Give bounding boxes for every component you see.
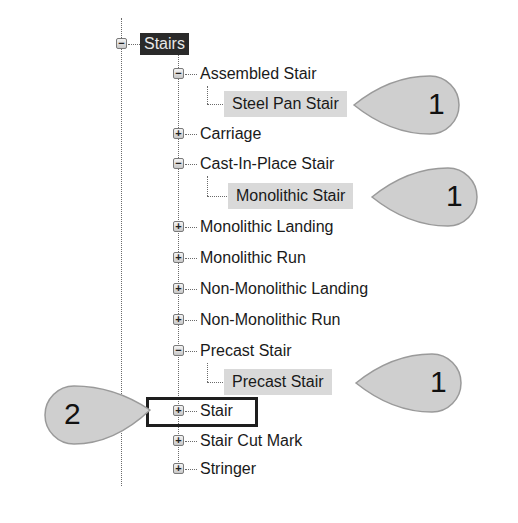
expand-toggle-icon[interactable]: + xyxy=(173,314,184,325)
callout-2-stair xyxy=(34,382,154,448)
tree-line xyxy=(185,411,197,412)
tree-item-monolithic-run[interactable]: Monolithic Run xyxy=(197,247,309,269)
collapse-toggle-icon[interactable]: − xyxy=(173,158,184,169)
tree-item-precast-stair[interactable]: Precast Stair xyxy=(197,340,295,362)
tree-line xyxy=(185,351,197,352)
collapse-toggle-icon[interactable]: − xyxy=(116,38,127,49)
tree-item-stringer[interactable]: Stringer xyxy=(197,458,259,480)
tree-line xyxy=(185,258,197,259)
collapse-toggle-icon[interactable]: − xyxy=(173,345,184,356)
tree-line xyxy=(185,441,197,442)
tree-line xyxy=(185,164,197,165)
tree-item-stairs[interactable]: Stairs xyxy=(140,33,189,55)
expand-toggle-icon[interactable]: + xyxy=(173,283,184,294)
tree-line xyxy=(185,74,197,75)
tree-item-carriage[interactable]: Carriage xyxy=(197,123,264,145)
tree-item-monolithic-stair[interactable]: Monolithic Stair xyxy=(228,183,353,209)
tree-line xyxy=(185,134,197,135)
tree-line xyxy=(185,469,197,470)
tree-line xyxy=(185,320,197,321)
collapse-toggle-icon[interactable]: − xyxy=(173,68,184,79)
expand-toggle-icon[interactable]: + xyxy=(173,128,184,139)
callout-number: 1 xyxy=(428,87,445,121)
callout-number: 2 xyxy=(64,397,81,431)
tree-line xyxy=(207,86,208,104)
tree-line xyxy=(207,104,225,105)
tree-item-stair-cut-mark[interactable]: Stair Cut Mark xyxy=(197,430,305,452)
callout-1-steel-pan-stair xyxy=(350,72,470,138)
tree-line xyxy=(207,363,208,382)
tree-item-monolithic-landing[interactable]: Monolithic Landing xyxy=(197,216,336,238)
tree-line xyxy=(207,176,208,196)
tree-item-cast-in-place-stair[interactable]: Cast-In-Place Stair xyxy=(197,153,337,175)
expand-toggle-icon[interactable]: + xyxy=(173,252,184,263)
expand-toggle-icon[interactable]: + xyxy=(173,221,184,232)
tree-item-stair[interactable]: Stair xyxy=(197,400,236,422)
callout-number: 1 xyxy=(430,365,447,399)
expand-toggle-icon[interactable]: + xyxy=(173,405,184,416)
callout-number: 1 xyxy=(446,179,463,213)
callout-1-monolithic-stair xyxy=(368,164,488,230)
tree-item-non-monolithic-landing[interactable]: Non-Monolithic Landing xyxy=(197,278,371,300)
tree-item-precast-stair-child[interactable]: Precast Stair xyxy=(224,369,332,395)
tree-line xyxy=(128,44,140,45)
tree-line xyxy=(185,289,197,290)
tree-line xyxy=(185,227,197,228)
expand-toggle-icon[interactable]: + xyxy=(173,435,184,446)
expand-toggle-icon[interactable]: + xyxy=(173,463,184,474)
callout-1-precast-stair xyxy=(352,350,472,416)
tree-item-non-monolithic-run[interactable]: Non-Monolithic Run xyxy=(197,309,344,331)
tree-item-steel-pan-stair[interactable]: Steel Pan Stair xyxy=(224,91,347,117)
tree-item-assembled-stair[interactable]: Assembled Stair xyxy=(197,63,320,85)
